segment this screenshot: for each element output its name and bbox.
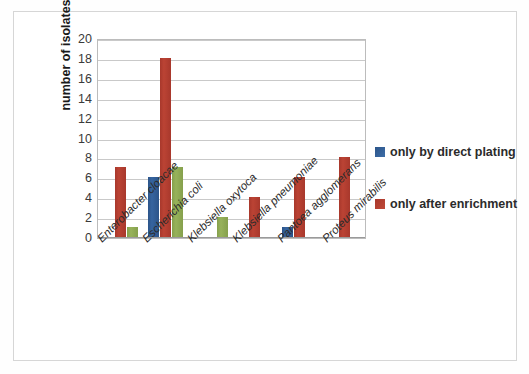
chart-legend: only by direct platingonly after enrichm…: [375, 145, 525, 249]
legend-label: only by direct plating: [390, 145, 516, 159]
y-tick-label: 6: [66, 172, 92, 185]
chart-figure: number of isolates 20181614121086420 Ent…: [0, 0, 529, 374]
y-tick-label: 2: [66, 212, 92, 225]
bar: [217, 217, 228, 237]
y-axis-ticks: 20181614121086420: [64, 39, 92, 239]
y-tick-label: 20: [66, 33, 92, 46]
legend-swatch: [375, 199, 385, 209]
y-tick-label: 10: [66, 133, 92, 146]
y-tick-label: 12: [66, 113, 92, 126]
legend-label: only after enrichment: [390, 197, 517, 211]
y-tick-label: 16: [66, 73, 92, 86]
y-tick-label: 0: [66, 232, 92, 245]
chart-frame: number of isolates 20181614121086420 Ent…: [13, 11, 517, 361]
y-tick-label: 14: [66, 93, 92, 106]
legend-swatch: [375, 147, 385, 157]
y-tick-label: 18: [66, 53, 92, 66]
y-tick-label: 8: [66, 152, 92, 165]
y-tick-label: 4: [66, 192, 92, 205]
legend-item[interactable]: only by direct plating: [375, 145, 525, 159]
legend-item[interactable]: only after enrichment: [375, 197, 525, 211]
bar: [127, 227, 138, 237]
